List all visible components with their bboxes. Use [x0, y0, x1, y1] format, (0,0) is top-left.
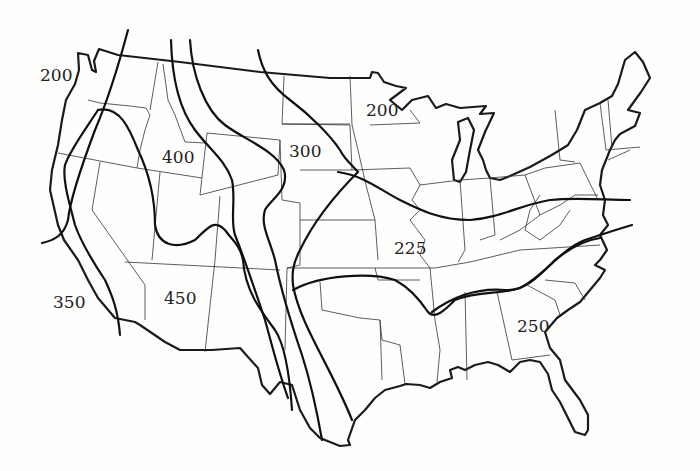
- contour-450-inner: [190, 40, 322, 440]
- contour-lines: [42, 30, 632, 440]
- contour-200-north: [338, 172, 630, 220]
- contour-label-300: 300: [289, 143, 321, 160]
- contour-label-450: 450: [164, 290, 196, 307]
- contour-label-350: 350: [53, 294, 85, 311]
- state-borders: [58, 62, 640, 384]
- us-contour-map: [0, 0, 700, 471]
- contour-label-200-north: 200: [366, 102, 398, 119]
- contour-250-coast: [432, 238, 600, 312]
- contour-400: [171, 40, 288, 398]
- contour-label-225: 225: [394, 240, 426, 257]
- contour-label-250: 250: [517, 318, 549, 335]
- contour-label-200-west: 200: [40, 67, 72, 84]
- contour-label-400: 400: [162, 149, 194, 166]
- contour-300: [258, 50, 358, 420]
